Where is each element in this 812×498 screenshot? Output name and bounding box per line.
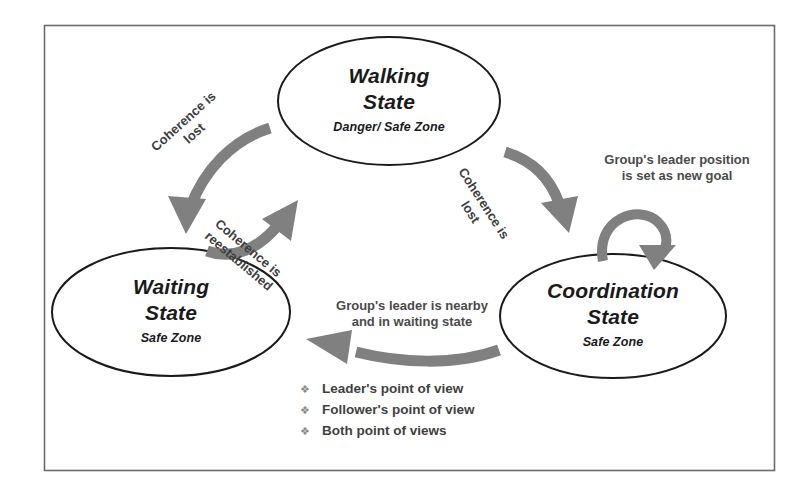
- state-diagram: Walking State Danger/ Safe Zone Waiting …: [0, 0, 812, 498]
- diagram-canvas: [0, 0, 812, 498]
- state-node-walking: [278, 37, 500, 165]
- state-node-waiting: [52, 248, 290, 376]
- state-node-coordination: [500, 254, 726, 378]
